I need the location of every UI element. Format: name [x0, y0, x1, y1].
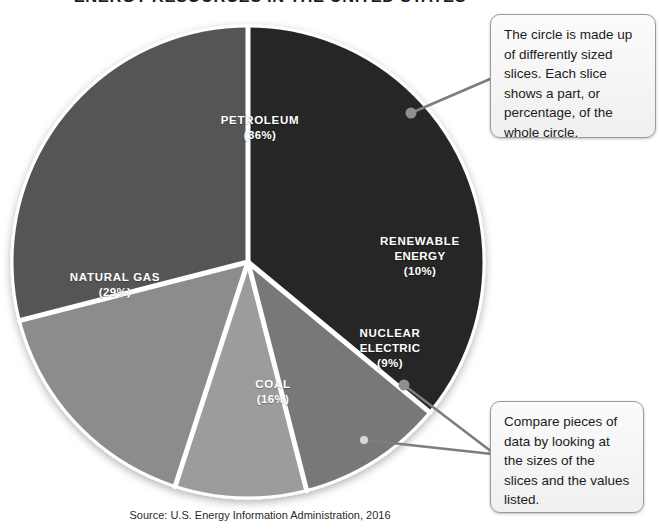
callout-box-bottom: Compare pieces of data by looking at the…	[490, 401, 644, 513]
connector-dot-coal	[359, 435, 369, 445]
connector-dot-top	[406, 108, 417, 119]
connector-line-top	[411, 76, 497, 113]
pie-slices-exact	[12, 26, 484, 498]
chart-title: ENERGY RESOURCES IN THE UNITED STATES	[0, 0, 540, 6]
connector-dot-nuclear	[399, 380, 410, 391]
callout-box-top: The circle is made up of differently siz…	[490, 14, 656, 138]
source-attribution: Source: U.S. Energy Information Administ…	[0, 509, 520, 521]
